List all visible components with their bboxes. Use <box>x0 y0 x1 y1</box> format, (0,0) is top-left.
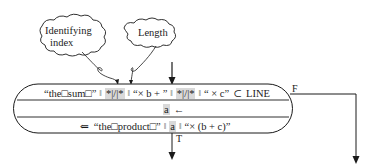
subject-line: LINE <box>246 88 270 99</box>
literal-the-sum: “the□sum□” <box>44 88 96 99</box>
connector-identifying-index <box>82 52 119 85</box>
literal-times-b-plus-c: “× (b + c)” <box>184 121 230 132</box>
box-row-replacement: ⇐ “the□product□” ‖ a ‖ “× (b + c)” <box>80 118 230 134</box>
concat-separator: ‖ <box>170 88 173 98</box>
cloud-label-identifying-index: Identifying index <box>45 25 92 49</box>
replace-arrow-icon: ⇐ <box>80 120 89 132</box>
concat-separator: ‖ <box>164 121 167 131</box>
cloud-line: index <box>45 37 92 49</box>
concat-separator: ‖ <box>198 88 201 98</box>
cloud-line: Length <box>138 27 168 39</box>
literal-times-c: “ × c” <box>204 88 229 99</box>
entry-arrow <box>169 62 176 85</box>
false-branch-arrow <box>290 94 360 164</box>
cloud-label-length: Length <box>138 27 168 39</box>
variable-a: a <box>163 104 170 115</box>
subset-symbol: ⊂ <box>233 87 242 99</box>
true-branch-label: T <box>176 133 182 144</box>
box-row-pattern: “the□sum□” ‖ *|/|* ‖ “× b + ” ‖ *|/|* ‖ … <box>44 85 270 101</box>
true-branch-arrow <box>169 133 176 160</box>
literal-the-product: “the□product□” <box>94 121 161 132</box>
literal-times-b-plus: “× b + ” <box>133 88 167 99</box>
variable-a: a <box>169 121 176 132</box>
box-row-assignment: a ← <box>163 101 184 117</box>
concat-separator: ‖ <box>99 88 102 98</box>
connector-length <box>129 46 156 85</box>
cloud-line: Identifying <box>45 25 92 37</box>
concat-separator: ‖ <box>179 121 182 131</box>
concat-separator: ‖ <box>128 88 131 98</box>
false-branch-label: F <box>292 83 298 94</box>
arb-string-marker: *|/|* <box>105 88 125 99</box>
arb-string-marker: *|/|* <box>176 88 196 99</box>
assign-arrow-icon: ← <box>174 104 185 115</box>
